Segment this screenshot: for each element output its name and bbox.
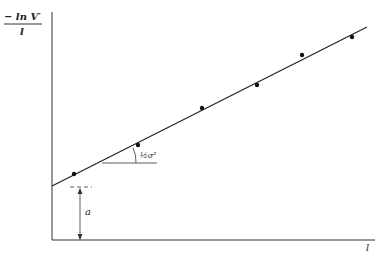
x-axis-label: l [366, 242, 369, 253]
slope-label: ½σ² [140, 151, 156, 160]
data-point [72, 172, 76, 176]
fit-line [52, 27, 367, 186]
data-point [300, 53, 304, 57]
y-axis-label-denominator: l [20, 26, 24, 37]
slope-angle-arc [133, 148, 136, 163]
y-axis-label-numerator: − ln V′ [4, 11, 41, 22]
data-point [350, 35, 354, 39]
intercept-arrow-head-bottom [78, 234, 83, 240]
data-point [136, 143, 140, 147]
intercept-label: a [85, 206, 91, 217]
intercept-arrow-head-top [78, 188, 83, 194]
data-point [200, 106, 204, 110]
data-point [255, 83, 259, 87]
chart-canvas: − ln V′ l l ½σ² a [0, 0, 384, 255]
